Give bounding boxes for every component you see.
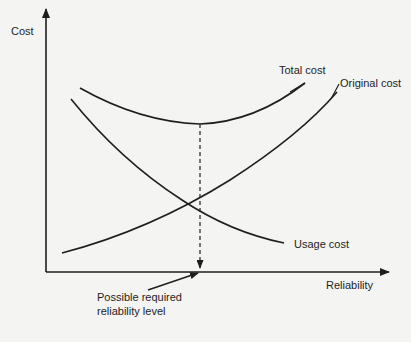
usage-cost-curve xyxy=(71,99,284,243)
y-axis-label: Cost xyxy=(11,25,34,38)
annotation-line-2: reliability level xyxy=(97,305,165,318)
original-cost-label: Original cost xyxy=(340,77,401,90)
original-cost-leader xyxy=(331,84,339,99)
usage-cost-label: Usage cost xyxy=(294,238,349,251)
cost-reliability-diagram: Cost Reliability Total cost Original cos… xyxy=(0,0,411,342)
original-cost-curve xyxy=(62,92,337,253)
total-cost-leader xyxy=(290,83,305,92)
total-cost-label: Total cost xyxy=(279,64,325,77)
total-cost-curve xyxy=(80,83,305,124)
annotation-arrow xyxy=(148,273,198,290)
x-axis-label: Reliability xyxy=(326,279,373,292)
annotation-line-1: Possible required xyxy=(97,291,182,304)
